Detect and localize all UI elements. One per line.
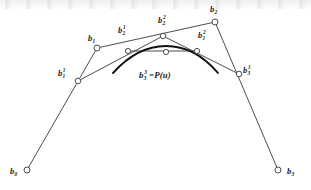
point-marker-b0 xyxy=(24,167,30,173)
point-marker-b1-2 xyxy=(194,48,199,53)
label-b1-base: b xyxy=(88,33,92,43)
point-marker-b2-1 xyxy=(160,33,166,39)
label-b2-1-base: b xyxy=(118,25,122,35)
label-b3-base: b xyxy=(287,166,291,176)
label-b3-1-sub: 3 xyxy=(248,70,251,76)
label-b2-base: b xyxy=(210,4,214,14)
label-b2-sub: 2 xyxy=(215,9,218,15)
label-b1-1-base: b xyxy=(58,68,62,78)
point-marker-b3-3 xyxy=(163,49,168,54)
label-b0-base: b xyxy=(10,166,14,176)
label-b2-2-sup: 2 xyxy=(163,14,166,20)
point-marker-b1-1 xyxy=(75,78,81,84)
label-b1-sub: 1 xyxy=(93,38,96,44)
label-b3-1-sup: 1 xyxy=(248,64,251,70)
control-polygon-path xyxy=(27,22,278,170)
point-marker-b2 xyxy=(212,19,218,25)
label-b2-1: b21 xyxy=(118,26,128,35)
equation-sup: 3 xyxy=(144,69,147,75)
label-b0: b0 xyxy=(10,167,17,176)
label-b3-sub: 3 xyxy=(292,171,295,177)
label-b3: b3 xyxy=(287,167,294,176)
label-b1-1: b11 xyxy=(58,69,68,78)
curve-point-equation: b33=P(u) xyxy=(139,71,171,80)
equation-function: P(u) xyxy=(154,70,171,80)
label-b2: b2 xyxy=(210,5,217,14)
point-marker-b1 xyxy=(94,45,100,51)
equation-base: b xyxy=(139,70,144,80)
label-b1-2-sub: 1 xyxy=(203,35,206,41)
label-b1-2-base: b xyxy=(198,30,202,40)
label-b3-1: b31 xyxy=(243,66,253,75)
label-b2-2-base: b xyxy=(158,15,162,25)
label-b1-1-sub: 1 xyxy=(63,73,66,79)
point-marker-b2-2 xyxy=(125,48,130,53)
point-marker-b3 xyxy=(275,167,281,173)
label-b2-1-sub: 2 xyxy=(123,30,126,36)
equation-sub: 3 xyxy=(144,75,147,81)
label-b1-2: b12 xyxy=(198,31,208,40)
label-b2-2-sub: 2 xyxy=(163,20,166,26)
bezier-de-casteljau-figure: b0 b1 b2 b3 b11 b21 b31 b22 b12 b33=P(u) xyxy=(0,0,311,190)
label-b2-2: b22 xyxy=(158,16,168,25)
label-b0-sub: 0 xyxy=(15,171,18,177)
label-b1-1-sup: 1 xyxy=(63,67,66,73)
label-b1-2-sup: 2 xyxy=(203,29,206,35)
label-b3-1-base: b xyxy=(243,65,247,75)
label-b1: b1 xyxy=(88,34,95,43)
label-b2-1-sup: 1 xyxy=(123,24,126,30)
point-marker-b3-1 xyxy=(236,71,242,77)
figure-canvas xyxy=(0,0,311,190)
